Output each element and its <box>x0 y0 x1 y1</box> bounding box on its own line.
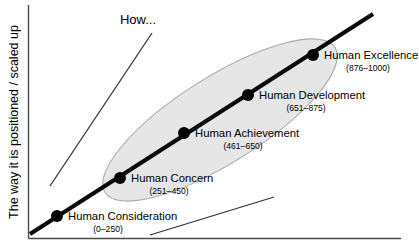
point-label: Human Concern <box>131 172 213 184</box>
point-range: (876–1000) <box>346 63 390 73</box>
point-dot[interactable] <box>307 49 319 61</box>
point-label: Human Excellence <box>324 49 418 61</box>
point-dot[interactable] <box>51 210 63 222</box>
point-range: (0–250) <box>93 224 123 234</box>
maturity-progression-chart: How... The way it is positioned / scaled… <box>0 0 419 252</box>
point-label: Human Development <box>259 89 366 101</box>
point-dot[interactable] <box>242 89 254 101</box>
point-range: (461–650) <box>223 141 262 151</box>
point-dot[interactable] <box>114 172 126 184</box>
y-axis-label: The way it is positioned / scaled up <box>7 25 21 219</box>
diagram-canvas: How... The way it is positioned / scaled… <box>0 0 419 252</box>
point-dot[interactable] <box>178 127 190 139</box>
how-annotation-label: How... <box>120 12 156 27</box>
point-range: (251–450) <box>149 186 188 196</box>
point-label: Human Consideration <box>68 210 177 222</box>
point-label: Human Achievement <box>195 127 300 139</box>
point-range: (651–875) <box>286 103 325 113</box>
